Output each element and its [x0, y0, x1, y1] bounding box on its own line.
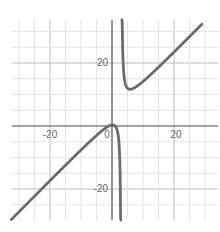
y-tick-label-20: 20 — [97, 57, 109, 68]
y-tick-label-neg20: -20 — [94, 183, 109, 194]
grid-lines — [12, 20, 218, 220]
function-plot: -20 0 20 20 -20 — [0, 0, 220, 232]
x-tick-label-0: 0 — [104, 129, 110, 140]
x-tick-label-20: 20 — [170, 129, 182, 140]
axes — [12, 20, 218, 220]
x-tick-label-neg20: -20 — [43, 129, 58, 140]
